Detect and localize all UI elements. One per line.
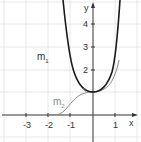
curve-m1 — [63, 0, 120, 92]
y-axis-arrow-icon — [91, 2, 95, 8]
m1-label: m1 — [37, 52, 49, 64]
x-tick-neg1: -1 — [67, 121, 75, 130]
x-axis-label: x — [129, 119, 134, 128]
y-tick-3: 3 — [83, 43, 88, 52]
contact-arrow-icon — [82, 88, 86, 92]
y-tick-2: 2 — [83, 66, 88, 75]
m2-label: m2 — [53, 97, 65, 109]
y-tick-4: 4 — [83, 20, 88, 29]
x-tick-neg3: -3 — [23, 121, 31, 130]
x-tick-neg2: -2 — [45, 121, 53, 130]
y-axis-label: y — [84, 4, 89, 13]
x-tick-1: 1 — [113, 121, 118, 130]
